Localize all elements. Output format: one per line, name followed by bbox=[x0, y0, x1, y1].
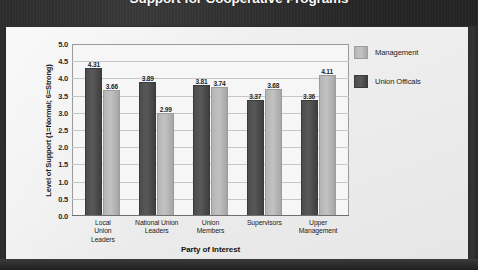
x-category-label-line: Union bbox=[185, 219, 237, 227]
bar-group: 3.364.11 bbox=[291, 44, 345, 216]
bar[interactable]: 3.36 bbox=[301, 100, 318, 216]
y-tick-label: 1.0 bbox=[58, 177, 68, 186]
bar-value-label: 3.68 bbox=[267, 82, 279, 89]
legend-swatch-union-officals bbox=[354, 75, 368, 88]
x-category-labels: LocalUnionLeadersNational UnionLeadersUn… bbox=[72, 219, 349, 244]
legend-item[interactable]: Union Officals bbox=[354, 75, 459, 88]
x-category-label-line: Upper bbox=[292, 219, 344, 227]
legend-item[interactable]: Management bbox=[354, 46, 459, 59]
chart-screenshot: Support for Cooperative Programs Level o… bbox=[0, 0, 478, 270]
bar[interactable]: 3.68 bbox=[265, 89, 282, 216]
bar-value-label: 3.37 bbox=[249, 93, 261, 100]
y-tick-label: 1.5 bbox=[58, 160, 68, 169]
bar-value-label: 3.81 bbox=[195, 78, 207, 85]
x-category-label-line: Union bbox=[77, 227, 129, 235]
right-edge-shadow bbox=[468, 26, 478, 260]
x-category-label-line: Management bbox=[292, 227, 344, 235]
bar-value-label: 3.89 bbox=[142, 75, 154, 82]
bar-group: 3.892.99 bbox=[130, 44, 184, 216]
bar-value-label: 4.31 bbox=[88, 61, 100, 68]
x-category-label: LocalUnionLeaders bbox=[76, 219, 130, 244]
y-tick-label: 3.5 bbox=[58, 91, 68, 100]
x-axis-baseline bbox=[72, 215, 349, 216]
y-axis-title: Level of Support (1=Normal; 6=Strong) bbox=[42, 44, 54, 216]
bar-value-label: 3.66 bbox=[106, 83, 118, 90]
x-axis-title: Party of Interest bbox=[72, 245, 349, 254]
bar[interactable]: 4.31 bbox=[85, 68, 102, 216]
legend-item-label: Management bbox=[375, 48, 418, 57]
y-tick-label: 4.5 bbox=[58, 57, 68, 66]
y-tick-label: 4.0 bbox=[58, 74, 68, 83]
chart-title: Support for Cooperative Programs bbox=[0, 0, 478, 6]
x-category-label-line: National Union bbox=[131, 219, 183, 227]
bar[interactable]: 2.99 bbox=[157, 113, 174, 216]
x-category-label: Supervisors bbox=[237, 219, 291, 244]
x-category-label: UpperManagement bbox=[291, 219, 345, 244]
bottom-edge-shadow bbox=[0, 259, 478, 270]
bar-value-label: 3.36 bbox=[303, 93, 315, 100]
y-tick-label: 5.0 bbox=[58, 40, 68, 49]
bar-group: 3.373.68 bbox=[237, 44, 291, 216]
bar-group: 3.813.74 bbox=[184, 44, 238, 216]
plot-wrapper: 5.04.54.03.53.02.52.01.51.00.50.0 4.313.… bbox=[72, 44, 349, 216]
bar-value-label: 3.74 bbox=[213, 80, 225, 87]
bar[interactable]: 3.37 bbox=[247, 100, 264, 216]
y-tick-label: 3.0 bbox=[58, 108, 68, 117]
y-tick-label: 0.0 bbox=[58, 212, 68, 221]
bar[interactable]: 4.11 bbox=[319, 75, 336, 216]
bar-value-label: 2.99 bbox=[160, 106, 172, 113]
y-tick-label: 2.0 bbox=[58, 143, 68, 152]
bar[interactable]: 3.89 bbox=[139, 82, 156, 216]
x-category-label: National UnionLeaders bbox=[130, 219, 184, 244]
bar[interactable]: 3.74 bbox=[211, 87, 228, 216]
bar[interactable]: 3.81 bbox=[193, 85, 210, 216]
chart-legend: ManagementUnion Officals bbox=[354, 46, 459, 104]
y-axis-title-text: Level of Support (1=Normal; 6=Strong) bbox=[44, 64, 53, 196]
x-category-label-line: Local bbox=[77, 219, 129, 227]
x-category-label: UnionMembers bbox=[184, 219, 238, 244]
bar-groups: 4.313.663.892.993.813.743.373.683.364.11 bbox=[72, 44, 349, 216]
chart-card: Level of Support (1=Normal; 6=Strong) 5.… bbox=[6, 27, 468, 259]
x-category-label-line: Supervisors bbox=[238, 219, 290, 227]
y-tick-label: 2.5 bbox=[58, 126, 68, 135]
legend-swatch-management bbox=[354, 46, 368, 59]
title-banner: Support for Cooperative Programs bbox=[0, 0, 478, 26]
y-tick-label: 0.5 bbox=[58, 194, 68, 203]
bar-group: 4.313.66 bbox=[76, 44, 130, 216]
bar-value-label: 4.11 bbox=[321, 68, 333, 75]
x-category-label-line: Members bbox=[185, 227, 237, 235]
bar[interactable]: 3.66 bbox=[103, 90, 120, 216]
legend-item-label: Union Officals bbox=[375, 77, 421, 86]
x-category-label-line: Leaders bbox=[131, 227, 183, 235]
x-category-label-line: Leaders bbox=[77, 236, 129, 244]
